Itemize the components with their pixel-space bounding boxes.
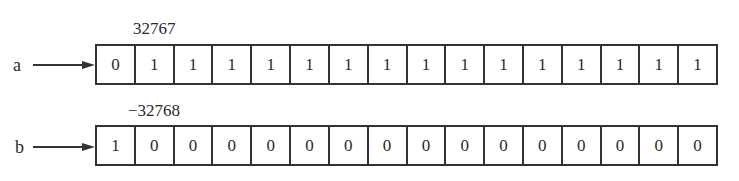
bit-cell: 1 <box>330 46 369 83</box>
bit-cell: 0 <box>563 127 602 164</box>
bit-cell: 0 <box>602 127 641 164</box>
bit-cell: 1 <box>175 46 214 83</box>
bit-cell: 1 <box>524 46 563 83</box>
bit-cell: 1 <box>485 46 524 83</box>
bit-cell: 1 <box>213 46 252 83</box>
bit-cell: 1 <box>408 46 447 83</box>
bit-cell: 0 <box>446 127 485 164</box>
bit-cell: 1 <box>446 46 485 83</box>
bit-cell: 1 <box>136 46 175 83</box>
value-label-b: −32768 <box>128 102 180 119</box>
bit-cell: 0 <box>679 127 716 164</box>
variable-label-b: b <box>15 138 24 156</box>
arrow-head-icon <box>82 61 95 69</box>
bit-cell: 1 <box>291 46 330 83</box>
bit-cell: 1 <box>640 46 679 83</box>
arrow-line-a <box>33 64 83 66</box>
bit-cell: 0 <box>524 127 563 164</box>
bit-cell: 0 <box>485 127 524 164</box>
bit-cell: 0 <box>213 127 252 164</box>
register-a: 0 1 1 1 1 1 1 1 1 1 1 1 1 1 1 1 <box>95 44 718 85</box>
bit-cell: 1 <box>369 46 408 83</box>
bit-cell: 0 <box>136 127 175 164</box>
register-b: 1 0 0 0 0 0 0 0 0 0 0 0 0 0 0 0 <box>95 125 718 166</box>
bit-cell: 0 <box>291 127 330 164</box>
bit-cell: 1 <box>679 46 716 83</box>
bit-cell: 0 <box>640 127 679 164</box>
bit-cell: 0 <box>97 46 136 83</box>
bit-cell: 0 <box>252 127 291 164</box>
arrow-line-b <box>33 146 83 148</box>
value-label-a: 32767 <box>133 20 176 37</box>
bit-cell: 0 <box>175 127 214 164</box>
bit-cell: 1 <box>602 46 641 83</box>
bit-cell: 1 <box>97 127 136 164</box>
bit-cell: 1 <box>563 46 602 83</box>
bit-cell: 0 <box>330 127 369 164</box>
variable-label-a: a <box>13 56 21 74</box>
bit-cell: 1 <box>252 46 291 83</box>
bit-cell: 0 <box>369 127 408 164</box>
bit-cell: 0 <box>408 127 447 164</box>
arrow-head-icon <box>82 143 95 151</box>
